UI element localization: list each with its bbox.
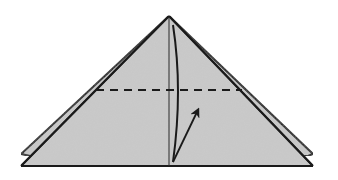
diagram-canvas — [0, 0, 338, 180]
origami-diagram: Triangle folded model with dashed valley… — [0, 0, 338, 180]
